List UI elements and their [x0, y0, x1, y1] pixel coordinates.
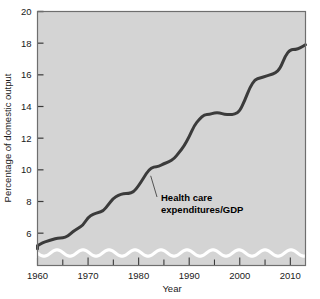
x-tick-label: 1960	[27, 270, 48, 281]
y-tick-label: 18	[21, 38, 32, 49]
x-tick-label: 1980	[128, 270, 149, 281]
y-tick-label: 8	[26, 196, 31, 207]
x-tick-label: 2010	[280, 270, 301, 281]
y-tick-label: 20	[21, 6, 32, 17]
y-tick-label: 16	[21, 69, 32, 80]
x-tick-label: 2000	[229, 270, 250, 281]
x-tick-label: 1970	[77, 270, 98, 281]
y-axis-title: Percentage of domestic output	[2, 73, 13, 202]
chart-container: 68101214161820 196019701980199020002010 …	[0, 0, 320, 299]
annotation-line-2: expenditures/GDP	[161, 204, 244, 215]
x-axis-title: Year	[162, 283, 181, 294]
y-tick-label: 10	[21, 164, 32, 175]
x-tick-label: 1990	[179, 270, 200, 281]
annotation-line-1: Health care	[161, 192, 212, 203]
y-tick-label: 6	[26, 228, 31, 239]
y-tick-label: 14	[21, 101, 32, 112]
health-care-gdp-line-chart: 68101214161820 196019701980199020002010 …	[0, 0, 320, 299]
y-tick-label: 12	[21, 133, 32, 144]
